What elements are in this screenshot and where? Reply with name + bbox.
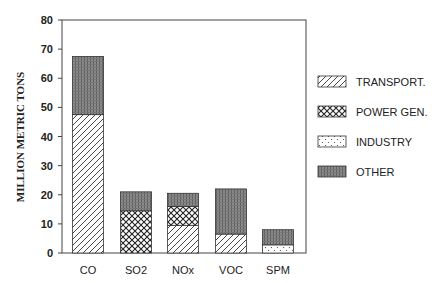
- y-tick-label: 70: [41, 43, 53, 55]
- legend-swatch: [318, 136, 346, 147]
- legend-item: INDUSTRY: [318, 136, 413, 148]
- legend-swatch: [318, 76, 346, 87]
- legend-label: INDUSTRY: [356, 136, 413, 148]
- legend-label: OTHER: [356, 166, 395, 178]
- bar-segment: [216, 234, 247, 253]
- bar-segment: [263, 245, 294, 253]
- y-tick-label: 50: [41, 101, 53, 113]
- bar-segment: [168, 225, 199, 253]
- legend-item: TRANSPORT.: [318, 76, 425, 88]
- bar-segment: [73, 56, 104, 114]
- y-axis-label: MILLION METRIC TONS: [14, 72, 26, 202]
- x-tick-label: SPM: [266, 264, 290, 276]
- y-tick-label: 80: [41, 14, 53, 26]
- legend: TRANSPORT.POWER GEN.INDUSTRYOTHER: [318, 76, 428, 178]
- y-tick-label: 40: [41, 131, 53, 143]
- bar-voc: [216, 189, 247, 253]
- y-tick-label: 20: [41, 189, 53, 201]
- y-tick-label: 10: [41, 218, 53, 230]
- bar-segment: [168, 206, 199, 225]
- y-axis: 01020304050607080: [41, 14, 62, 259]
- legend-label: POWER GEN.: [356, 106, 428, 118]
- x-tick-label: CO: [80, 264, 97, 276]
- bar-segment: [263, 230, 294, 245]
- bar-segment: [121, 192, 152, 211]
- bar-segment: [216, 189, 247, 234]
- x-tick-label: VOC: [219, 264, 243, 276]
- x-tick-label: SO2: [125, 264, 147, 276]
- x-tick-label: NOx: [172, 264, 195, 276]
- y-tick-label: 0: [47, 247, 53, 259]
- bars: [73, 56, 294, 253]
- x-axis: COSO2NOxVOCSPM: [80, 264, 290, 276]
- legend-swatch: [318, 166, 346, 177]
- bar-so2: [121, 192, 152, 253]
- y-tick-label: 30: [41, 160, 53, 172]
- stacked-bar-chart: 01020304050607080 COSO2NOxVOCSPM MILLION…: [0, 0, 442, 283]
- legend-item: POWER GEN.: [318, 106, 428, 118]
- bar-segment: [121, 211, 152, 253]
- legend-swatch: [318, 106, 346, 117]
- bar-segment: [168, 193, 199, 206]
- legend-label: TRANSPORT.: [356, 76, 425, 88]
- y-tick-label: 60: [41, 72, 53, 84]
- bar-nox: [168, 193, 199, 253]
- bar-co: [73, 56, 104, 253]
- legend-item: OTHER: [318, 166, 395, 178]
- bar-segment: [73, 115, 104, 253]
- bar-spm: [263, 230, 294, 253]
